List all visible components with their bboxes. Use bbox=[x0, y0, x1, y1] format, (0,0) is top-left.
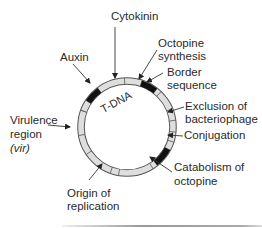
label-exclusion-1: Exclusion of bbox=[185, 100, 247, 113]
border-sequence-arrow bbox=[147, 73, 163, 82]
label-virulence-2: region bbox=[10, 128, 42, 141]
label-catabolism-1: Catabolism of bbox=[174, 161, 244, 174]
label-auxin: Auxin bbox=[60, 51, 89, 64]
label-virulence-1: Virulence bbox=[10, 114, 58, 127]
label-exclusion-2: bacteriophage bbox=[185, 113, 258, 126]
label-conjugation: Conjugation bbox=[184, 129, 245, 142]
label-catabolism-2: octopine bbox=[174, 175, 217, 188]
label-octopine-synthesis-2: synthesis bbox=[158, 50, 206, 63]
label-border-sequence-2: sequence bbox=[167, 79, 217, 92]
label-octopine-synthesis-1: Octopine bbox=[158, 37, 204, 50]
label-origin-1: Origin of bbox=[67, 187, 110, 200]
octopine-synthesis-arrow bbox=[139, 50, 157, 79]
t-dna-label: T-DNA bbox=[99, 89, 134, 115]
label-origin-2: replication bbox=[67, 200, 119, 213]
label-border-sequence-1: Border bbox=[167, 66, 202, 79]
label-virulence-3: (vir) bbox=[10, 142, 30, 155]
bottom-rule bbox=[62, 225, 262, 227]
origin-arrow bbox=[89, 164, 102, 180]
catabolism-segment bbox=[155, 149, 167, 164]
auxin-arrow bbox=[73, 64, 90, 83]
label-cytokinin: Cytokinin bbox=[111, 10, 158, 23]
